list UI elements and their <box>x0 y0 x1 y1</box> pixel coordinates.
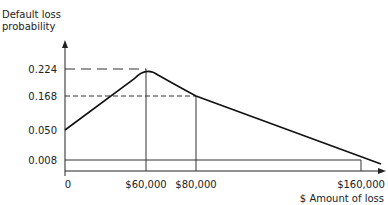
y-axis-title: Default loss <box>2 9 61 20</box>
y-axis-title: probability <box>2 21 55 32</box>
y-tick-label: 0.050 <box>28 125 57 136</box>
x-tick-label: $80,000 <box>175 179 216 190</box>
axes <box>62 40 386 176</box>
x-axis-arrow-icon <box>378 168 386 174</box>
x-tick-label: 0 <box>65 179 71 190</box>
labels: Default lossprobability0.2240.1680.0500.… <box>2 9 385 204</box>
y-tick-label: 0.008 <box>28 155 57 166</box>
x-tick-label: $160,000 <box>337 179 385 190</box>
x-tick-label: $60,000 <box>125 179 166 190</box>
y-tick-label: 0.224 <box>28 64 57 75</box>
x-axis-title: $ Amount of loss <box>300 193 384 204</box>
curve-group <box>65 71 381 164</box>
y-axis-arrow-icon <box>62 40 68 48</box>
series-line-default-loss <box>65 71 381 164</box>
y-tick-label: 0.168 <box>28 91 57 102</box>
chart: Default lossprobability0.2240.1680.0500.… <box>0 0 388 205</box>
reference-lines <box>65 69 361 171</box>
